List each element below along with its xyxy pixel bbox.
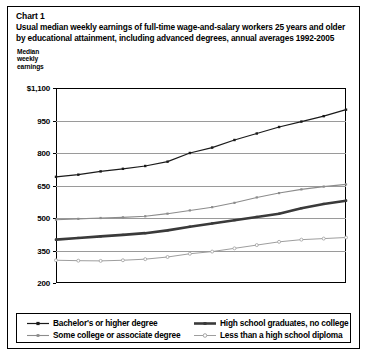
data-point [144,165,146,167]
legend-swatch-filled-square-icon [27,319,49,328]
data-point [345,236,348,239]
data-point [345,200,347,202]
data-point [255,244,258,247]
chart-title-line-2: by educational attainment, including adv… [16,33,346,44]
data-point [166,229,168,231]
data-point [233,247,236,250]
data-point [233,139,235,141]
legend-swatch-open-circle-icon [194,331,216,340]
data-point [233,202,235,204]
y-axis-caption: Median weekly earnings [17,48,59,70]
legend: Bachelor's or higher degree Some college… [16,313,351,343]
data-point [144,258,147,261]
data-point [345,108,347,110]
legend-swatch-small-square-icon [27,331,49,340]
data-point [77,259,80,262]
y-tick-label: 950 [0,116,50,125]
legend-item-some-college[interactable]: Some college or associate degree [27,330,180,340]
data-point [300,188,302,190]
data-point [166,160,168,162]
legend-item-hs-graduates[interactable]: High school graduates, no college [194,318,348,328]
data-point [256,216,258,218]
data-point [300,238,303,241]
data-point [322,237,325,240]
data-point [55,219,57,221]
data-point [166,256,169,259]
y-tick-label: 350 [0,246,50,255]
y-tick-mark [53,283,56,284]
data-point [345,183,347,185]
data-point [189,226,191,228]
plot-area: $1,100950800650500350200 199319951997199… [56,88,346,283]
data-point [278,240,281,243]
chart-title: Usual median weekly earnings of full-tim… [16,22,346,43]
data-point [77,218,79,220]
data-point [77,173,79,175]
data-point [278,192,280,194]
y-tick-label: 200 [0,279,50,288]
data-point [323,185,325,187]
data-point [189,209,191,211]
legend-label-some-college: Some college or associate degree [53,330,180,340]
data-point [211,222,213,224]
data-point [144,232,146,234]
chart-screenshot: Chart 1 Usual median weekly earnings of … [0,0,368,358]
series-lines [56,88,346,283]
y-tick-label: 650 [0,181,50,190]
data-point [122,168,124,170]
legend-label-bachelors: Bachelor's or higher degree [53,318,157,328]
data-point [55,259,58,262]
data-point [100,217,102,219]
legend-label-hs-graduates: High school graduates, no college [220,318,348,328]
data-point [166,213,168,215]
data-point [256,132,258,134]
data-point [256,196,258,198]
data-point [211,206,213,208]
series-1 [55,183,347,221]
data-point [77,237,79,239]
data-point [122,216,124,218]
data-point [322,115,324,117]
y-tick-label: 500 [0,214,50,223]
data-point [122,234,124,236]
data-point [55,239,57,241]
data-point [233,219,235,221]
data-point [100,235,102,237]
data-point [99,170,101,172]
chart-title-line-1: Usual median weekly earnings of full-tim… [16,22,346,33]
chart-number-label: Chart 1 [16,11,45,21]
y-tick-label: $1,100 [0,84,50,93]
y-tick-label: 800 [0,149,50,158]
series-0 [55,108,347,178]
data-point [278,126,280,128]
series-3 [55,236,348,262]
data-point [144,215,146,217]
data-point [211,146,213,148]
data-point [99,259,102,262]
data-point [300,207,302,209]
data-point [121,259,124,262]
data-point [55,176,57,178]
data-point [323,203,325,205]
data-point [189,152,191,154]
data-point [188,252,191,255]
data-point [211,250,214,253]
legend-swatch-thick-line-icon [194,319,216,328]
legend-item-bachelors[interactable]: Bachelor's or higher degree [27,318,157,328]
legend-item-less-than-hs[interactable]: Less than a high school diploma [194,330,342,340]
data-point [278,213,280,215]
legend-label-less-than-hs: Less than a high school diploma [220,330,342,340]
data-point [300,120,302,122]
series-2 [55,200,347,241]
